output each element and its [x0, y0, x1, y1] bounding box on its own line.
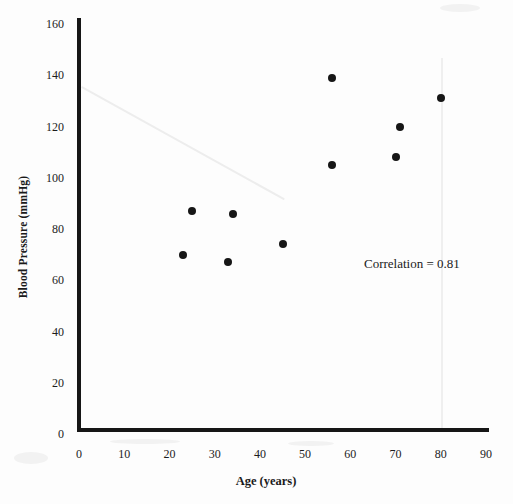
- data-point: [328, 161, 336, 169]
- data-point: [224, 258, 232, 266]
- y-axis-line: [77, 18, 81, 432]
- x-tick-label: 30: [195, 447, 235, 461]
- data-point: [179, 251, 187, 259]
- x-tick-label: 90: [466, 447, 506, 461]
- scan-smudge: [110, 439, 180, 444]
- x-axis-line: [77, 428, 489, 432]
- scan-artifact-diagonal-line: [81, 86, 285, 200]
- x-tick-label: 50: [285, 447, 325, 461]
- x-tick-label: 70: [376, 447, 416, 461]
- y-tick-label: 80: [20, 222, 64, 236]
- data-point: [229, 210, 237, 218]
- x-tick-label: 80: [421, 447, 461, 461]
- data-point: [188, 207, 196, 215]
- data-point: [392, 153, 400, 161]
- data-point: [279, 240, 287, 248]
- data-point: [396, 123, 404, 131]
- x-tick-label: 60: [330, 447, 370, 461]
- scan-artifact-vertical-line: [441, 58, 443, 428]
- scatter-plot-figure: Blood Pressure (mmHg) Age (years) Correl…: [0, 0, 513, 504]
- y-tick-label: 100: [20, 171, 64, 185]
- correlation-annotation: Correlation = 0.81: [364, 256, 460, 272]
- x-tick-label: 0: [59, 447, 99, 461]
- y-tick-label: 20: [20, 376, 64, 390]
- y-tick-label: 120: [20, 120, 64, 134]
- x-tick-label: 40: [240, 447, 280, 461]
- data-point: [328, 74, 336, 82]
- y-tick-label: 0: [20, 427, 64, 441]
- x-axis-title: Age (years): [236, 474, 297, 489]
- y-tick-label: 160: [20, 17, 64, 31]
- y-tick-label: 40: [20, 325, 64, 339]
- scan-smudge: [14, 452, 48, 464]
- x-tick-label: 10: [104, 447, 144, 461]
- y-tick-label: 140: [20, 68, 64, 82]
- y-tick-label: 60: [20, 273, 64, 287]
- data-point: [437, 94, 445, 102]
- scan-smudge: [288, 441, 334, 446]
- scan-smudge: [440, 4, 480, 12]
- x-tick-label: 20: [149, 447, 189, 461]
